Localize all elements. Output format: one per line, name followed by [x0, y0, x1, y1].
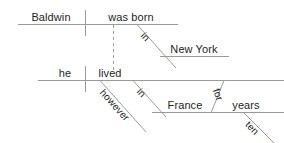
word-he: he: [59, 67, 71, 79]
word-lived: lived: [98, 67, 121, 79]
word-years: years: [232, 99, 259, 111]
word-was-born: was born: [108, 11, 153, 23]
word-france: France: [168, 99, 203, 111]
sentence-diagram: Baldwin was born in New York he lived ho…: [0, 0, 284, 143]
word-new-york: New York: [170, 43, 217, 55]
preposition-slant-in-2: [133, 81, 166, 118]
word-baldwin: Baldwin: [31, 11, 70, 23]
